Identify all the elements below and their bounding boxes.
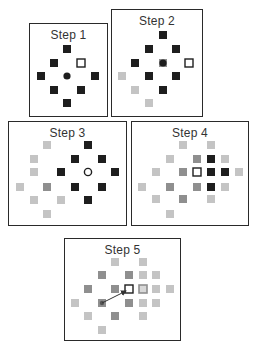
step-title: Step 5 <box>65 243 180 257</box>
step-title: Step 3 <box>9 126 126 140</box>
step-panel-1: Step 1 <box>29 23 108 117</box>
step-title: Step 4 <box>132 126 248 140</box>
step-panel-4: Step 4 <box>131 121 249 226</box>
step-panel-3: Step 3 <box>8 121 127 226</box>
step-title: Step 1 <box>30 28 107 42</box>
step-panel-5: Step 5 <box>64 238 181 341</box>
step-panel-2: Step 2 <box>111 9 203 117</box>
step-title: Step 2 <box>112 14 202 28</box>
